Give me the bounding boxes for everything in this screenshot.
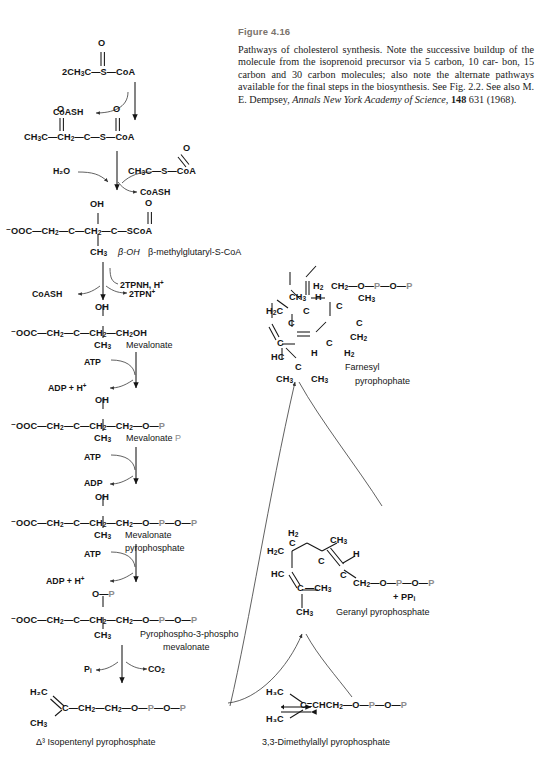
- farnesyl-c-c: C: [356, 318, 363, 328]
- farnesyl-c-e: C: [277, 338, 284, 348]
- geranyl-methyl-b: —CH3: [305, 583, 332, 593]
- farnesyl-h-a: H: [315, 292, 322, 302]
- farnesyl-chain-formula: CH2—O—P—O—P: [331, 281, 412, 291]
- farnesyl-h-c: H: [311, 348, 318, 358]
- acetoacetyl-oxygen-left: O: [57, 104, 64, 114]
- geranyl-c-low-b: C: [297, 583, 304, 593]
- geranyl-h: H: [353, 549, 360, 559]
- geranyl-h2c: H2C: [267, 546, 284, 556]
- geranyl-h2-top: H2: [288, 528, 299, 538]
- isopentenyl-h2c: H₂C: [30, 687, 48, 697]
- mevalonate-pp-methyl: CH3: [94, 530, 111, 540]
- farnesyl-hc: HC: [271, 352, 284, 362]
- acetyl-coa-formula: 2CH3C—S—CoA: [62, 67, 135, 77]
- atp-label-3: ATP: [84, 549, 101, 559]
- mevalonate-p-name: Mevalonate P: [126, 433, 181, 443]
- tpn-plus-label: 2TPN+: [129, 288, 155, 299]
- mevalonate-pp-formula: ⁻OOC—CH2—C—CH2—CH2—O—P—O—P: [11, 517, 197, 528]
- acetyl-coa-2-carbonyl-oxygen: O: [183, 143, 190, 153]
- geranyl-hc: HC: [271, 569, 284, 579]
- mevalonate-pp-name-line2: pyrophosphate: [125, 543, 185, 553]
- acetoacetyl-coa-formula: CH3C—CH2—C—S—CoA: [24, 132, 135, 142]
- farnesyl-methyl-b: CH3: [289, 292, 306, 302]
- acetyl-coa-2-formula: CH3C—S—CoA: [128, 166, 196, 176]
- mevalonate-p-hydroxyl: OH: [95, 395, 109, 405]
- mevalonate-formula: ⁻OOC—CH2—C—CH2—CH2OH: [11, 327, 147, 338]
- isopentenyl-methyl: CH3: [30, 718, 47, 728]
- acetoacetyl-oxygen-right: O: [113, 104, 120, 114]
- mevalonate-pp-hydroxyl: OH: [95, 492, 109, 502]
- atp-label-1: ATP: [84, 357, 101, 367]
- hmg-coa-name-beta-oh: β-OH: [118, 247, 140, 257]
- farnesyl-c-a: C: [336, 301, 343, 311]
- farnesyl-methyl-a: CH3: [358, 293, 375, 303]
- geranyl-c-top: C: [289, 538, 296, 548]
- isopentenyl-pp-name: Δ³ Isopentenyl pyrophosphate: [36, 737, 156, 747]
- farnesyl-c-d: C: [288, 318, 295, 328]
- acetyl-coa-carbonyl-oxygen: O: [98, 38, 105, 48]
- coash-label-2: CoASH: [140, 187, 170, 197]
- pyrophospho-mevalonate-name-line2: mevalonate: [163, 642, 210, 652]
- carbon-dioxide-label: CO2: [148, 664, 165, 674]
- mevalonate-methyl: CH3: [94, 340, 111, 350]
- farnesyl-ch2-link: CH2: [350, 332, 367, 342]
- geranyl-c-mid: C: [318, 556, 325, 566]
- geranyl-byproduct: + PPi: [393, 592, 416, 602]
- pyrophospho-mevalonate-methyl: CH3: [94, 630, 111, 640]
- geranyl-pp-name: Geranyl pyrophosphate: [336, 607, 430, 617]
- farnesyl-c-b: C: [303, 306, 310, 316]
- isopentenyl-formula: C—CH2—CH2—O—P—O—P: [62, 703, 186, 713]
- geranyl-c-low: C: [340, 570, 347, 580]
- phosphate-inorganic-label: Pi: [84, 664, 92, 674]
- adp-label-2: ADP: [84, 478, 103, 488]
- dimethylallyl-h3c-top: H₃C: [266, 687, 284, 697]
- hmg-coa-name: β-methylglutaryl-S-CoA: [148, 247, 241, 257]
- farnesyl-h2c: H2C: [266, 306, 283, 316]
- adp-h-label-1: ADP + H+: [48, 382, 86, 393]
- farnesyl-methyl-d: CH3: [311, 374, 328, 384]
- geranyl-methyl-c: CH3: [296, 607, 313, 617]
- water-label: H₂O: [53, 166, 70, 176]
- pyrophospho-mevalonate-top-phosphate: O—P: [92, 589, 115, 599]
- dimethylallyl-h3c-bottom: H₃C: [266, 714, 284, 724]
- farnesyl-pp-name-line1: Farnesyl: [345, 362, 380, 372]
- dimethylallyl-formula: C=CHCH2—O—P—O—P: [300, 700, 407, 710]
- farnesyl-h2-c: H2: [344, 348, 355, 358]
- hmg-coa-formula: ⁻OOC—CH2—C—CH2—C—SCoA: [6, 225, 152, 236]
- hmg-coa-hydroxyl: OH: [90, 199, 104, 209]
- farnesyl-methyl-c: CH3: [276, 374, 293, 384]
- mevalonate-p-methyl: CH3: [94, 433, 111, 443]
- geranyl-methyl-a: CH3: [330, 535, 347, 545]
- pyrophospho-mevalonate-name-line1: Pyrophospho-3-phospho: [140, 629, 239, 639]
- farnesyl-c-f: C: [326, 338, 333, 348]
- farnesyl-pp-name-line2: pyrophophate: [355, 376, 410, 386]
- hmg-coa-methyl: CH3: [90, 247, 107, 257]
- atp-label-2: ATP: [84, 452, 101, 462]
- dimethylallyl-pp-name: 3,3-Dimethylallyl pyrophosphate: [262, 737, 390, 747]
- mevalonate-name: Mevalonate: [126, 340, 173, 350]
- mevalonate-hydroxyl: OH: [95, 302, 109, 312]
- mevalonate-pp-name-line1: Mevalonate: [125, 530, 172, 540]
- adp-h-label-3: ADP + H+: [46, 575, 84, 586]
- geranyl-chain-formula: CH2—O—P—O—P: [353, 578, 434, 588]
- coash-label-3: CoASH: [32, 289, 62, 299]
- pyrophospho-mevalonate-formula: ⁻OOC—CH2—C—CH2—CH2—O—P—O—P: [11, 614, 197, 625]
- hmg-coa-carbonyl-oxygen: O: [145, 198, 152, 208]
- mevalonate-p-formula: ⁻OOC—CH2—C—CH2—CH2—O—P: [11, 420, 165, 431]
- farnesyl-h2-b: H2: [313, 281, 324, 291]
- farnesyl-c-g: C: [295, 362, 302, 372]
- pathway-diagram: O 2CH3C—S—CoA CoASH O O CH3C—CH2—C—S—CoA…: [0, 0, 543, 772]
